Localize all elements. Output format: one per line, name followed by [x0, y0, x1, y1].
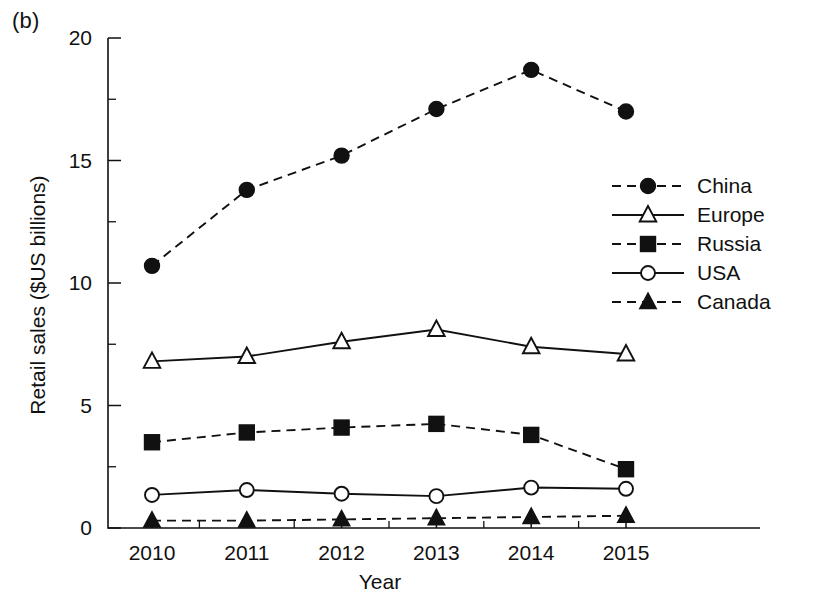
marker-filled-triangle: [144, 512, 161, 527]
marker-filled-triangle: [618, 507, 635, 522]
marker-filled-circle: [429, 102, 444, 117]
line-chart: 05101520 201020112012201320142015 ChinaE…: [0, 0, 829, 602]
series-line: [152, 516, 626, 521]
marker-open-circle: [524, 481, 538, 495]
marker-open-circle: [429, 489, 443, 503]
legend-label: Russia: [697, 232, 762, 255]
marker-filled-triangle: [333, 510, 350, 525]
marker-filled-circle: [239, 182, 254, 197]
legend: ChinaEuropeRussiaUSACanada: [612, 174, 771, 313]
marker-filled-circle: [619, 104, 634, 119]
marker-open-circle: [619, 482, 633, 496]
marker-open-circle: [641, 266, 655, 280]
y-tick-label: 10: [69, 271, 92, 294]
x-tick-label: 2011: [224, 541, 269, 564]
series-usa: [145, 481, 633, 504]
marker-open-triangle: [428, 321, 445, 336]
legend-item-usa[interactable]: USA: [612, 261, 740, 284]
marker-filled-circle: [641, 179, 656, 194]
x-tick-label: 2012: [318, 541, 365, 564]
x-tick-label: 2015: [603, 541, 650, 564]
legend-item-china[interactable]: China: [612, 174, 752, 197]
marker-filled-square: [145, 435, 160, 450]
legend-item-europe[interactable]: Europe: [612, 203, 765, 226]
series-line: [152, 488, 626, 497]
y-tick-label: 20: [69, 26, 92, 49]
marker-open-circle: [145, 488, 159, 502]
legend-item-russia[interactable]: Russia: [612, 232, 762, 255]
marker-filled-square: [619, 462, 634, 477]
marker-filled-circle: [145, 258, 160, 273]
marker-open-circle: [240, 483, 254, 497]
x-tick-label: 2013: [413, 541, 460, 564]
series-china: [145, 62, 634, 273]
marker-filled-square: [334, 420, 349, 435]
marker-filled-square: [429, 416, 444, 431]
x-tick-label: 2014: [508, 541, 555, 564]
x-tick-label: 2010: [129, 541, 176, 564]
legend-label: China: [697, 174, 752, 197]
series-line: [152, 424, 626, 469]
marker-filled-triangle: [239, 512, 256, 527]
marker-filled-triangle: [523, 508, 540, 523]
marker-filled-triangle: [428, 509, 445, 524]
legend-label: Canada: [697, 290, 771, 313]
series-line: [152, 70, 626, 266]
y-tick-label: 5: [80, 394, 92, 417]
series-line: [152, 330, 626, 362]
chart-page: (b) Retail sales ($US billions) Year 051…: [0, 0, 829, 602]
marker-filled-square: [641, 237, 656, 252]
marker-open-triangle: [144, 352, 161, 367]
series-group: [144, 62, 635, 527]
marker-filled-square: [239, 425, 254, 440]
marker-filled-square: [524, 427, 539, 442]
y-tick-label: 15: [69, 149, 92, 172]
series-europe: [144, 321, 635, 368]
marker-filled-circle: [334, 148, 349, 163]
legend-label: USA: [697, 261, 740, 284]
y-tick-group: 05101520: [69, 26, 121, 539]
legend-item-canada[interactable]: Canada: [612, 290, 771, 313]
marker-filled-triangle: [640, 293, 657, 308]
marker-filled-circle: [524, 62, 539, 77]
x-tick-group: 201020112012201320142015: [129, 517, 650, 564]
legend-label: Europe: [697, 203, 765, 226]
y-tick-label: 0: [80, 516, 92, 539]
marker-open-triangle: [640, 206, 657, 221]
series-russia: [145, 416, 634, 476]
marker-open-circle: [335, 487, 349, 501]
